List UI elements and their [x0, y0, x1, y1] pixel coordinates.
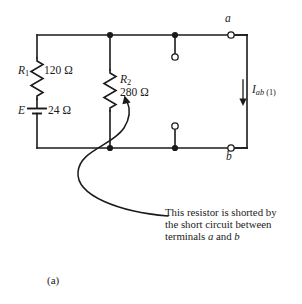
terminal-a-label: a — [225, 12, 231, 25]
figure-label: (a) — [47, 274, 59, 286]
junction-dot-bottom-short — [172, 145, 178, 151]
current-label: Iab (1) — [252, 83, 276, 98]
source-designator: E — [18, 104, 25, 117]
annotation-line-2: the short circuit between — [165, 218, 277, 230]
open-contact-upper — [172, 54, 178, 60]
annotation-line-3: terminals a and b — [165, 230, 277, 242]
terminal-b-label: b — [226, 150, 232, 163]
resistor-r2-symbol — [104, 70, 116, 111]
resistor-r1-symbol — [31, 58, 43, 99]
circuit-schematic — [0, 0, 302, 304]
current-arrow-head — [239, 99, 246, 107]
junction-dot-bottom-r2 — [107, 145, 113, 151]
resistor-r1-value: 120 Ω — [44, 64, 73, 77]
annotation-line-1: This resistor is shorted by — [165, 206, 277, 218]
terminal-a-node — [228, 32, 234, 38]
resistor-r2-value: 280 Ω — [120, 86, 149, 99]
figure-canvas: R1 120 Ω E 24 Ω R2 280 Ω a b Iab (1) Thi… — [0, 0, 302, 304]
annotation-caption: This resistor is shorted by the short ci… — [165, 206, 277, 242]
junction-dot-top-r2 — [107, 32, 113, 38]
annotation-curved-arrow — [78, 101, 168, 216]
resistor-r1-designator: R1 — [18, 64, 29, 79]
junction-dot-top-short — [172, 32, 178, 38]
open-contact-lower — [172, 123, 178, 129]
source-value: 24 Ω — [48, 104, 71, 117]
